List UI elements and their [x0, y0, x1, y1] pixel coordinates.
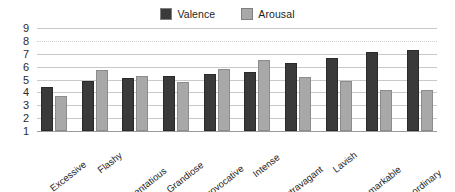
bar-valence[interactable]: [82, 81, 94, 131]
bar-arousal[interactable]: [258, 60, 270, 131]
legend-label-arousal: Arousal: [258, 8, 294, 20]
bar-arousal[interactable]: [177, 82, 189, 131]
legend-swatch-arousal: [241, 8, 253, 20]
bar-arousal[interactable]: [136, 76, 148, 131]
bar-valence[interactable]: [41, 87, 53, 131]
legend-label-valence: Valence: [177, 8, 215, 20]
bar-valence[interactable]: [285, 63, 297, 131]
x-axis-tick-label: Lavish: [331, 150, 358, 174]
x-axis-tick-label: Intense: [251, 152, 281, 179]
bar-group: [407, 28, 433, 131]
y-axis-tick-label: 6: [23, 61, 29, 72]
bar-arousal[interactable]: [421, 90, 433, 131]
legend-item-arousal: Arousal: [241, 8, 294, 20]
bar-valence[interactable]: [244, 72, 256, 131]
bar-arousal[interactable]: [96, 70, 108, 131]
x-axis-tick-label: Grandiose: [165, 160, 205, 192]
bar-group: [366, 28, 392, 131]
bar-group: [204, 28, 230, 131]
x-axis-labels: ExcessiveFlashyOstentatiousGrandioseProv…: [37, 133, 437, 192]
bar-valence[interactable]: [407, 50, 419, 131]
chart-legend: Valence Arousal: [0, 8, 455, 20]
bar-valence[interactable]: [326, 58, 338, 131]
plot-area: [37, 28, 437, 131]
y-axis-tick-label: 8: [23, 35, 29, 46]
bar-valence[interactable]: [204, 74, 216, 131]
x-axis-tick-label: Provocative: [201, 164, 246, 192]
y-axis-tick-label: 5: [23, 74, 29, 85]
y-axis-tick-label: 9: [23, 23, 29, 34]
x-axis-tick-label: Remarkable: [357, 165, 403, 192]
gridline: [37, 131, 437, 132]
x-axis-tick-label: Extravagant: [279, 164, 325, 192]
y-axis-tick-label: 3: [23, 100, 29, 111]
legend-item-valence: Valence: [160, 8, 215, 20]
y-axis-tick-label: 1: [23, 126, 29, 137]
y-axis-tick-label: 7: [23, 48, 29, 59]
bar-arousal[interactable]: [299, 77, 311, 131]
bar-arousal[interactable]: [218, 69, 230, 131]
bar-valence[interactable]: [366, 52, 378, 131]
x-axis-tick-label: Excessive: [48, 159, 88, 192]
bar-group: [244, 28, 270, 131]
bar-group: [285, 28, 311, 131]
bar-group: [82, 28, 108, 131]
bar-arousal[interactable]: [340, 81, 352, 131]
bar-group: [326, 28, 352, 131]
x-axis-tick-label: Flashy: [96, 150, 124, 175]
bar-group: [122, 28, 148, 131]
y-axis: 987654321: [0, 28, 33, 131]
y-axis-tick-label: 2: [23, 113, 29, 124]
bar-valence[interactable]: [163, 76, 175, 131]
bar-group: [41, 28, 67, 131]
bar-arousal[interactable]: [380, 90, 392, 131]
y-axis-tick-label: 4: [23, 87, 29, 98]
legend-swatch-valence: [160, 8, 172, 20]
bar-groups: [37, 28, 437, 131]
bar-group: [163, 28, 189, 131]
x-axis-tick-label: Ostentatious: [120, 166, 168, 192]
bar-arousal[interactable]: [55, 96, 67, 131]
bar-valence[interactable]: [122, 78, 134, 131]
